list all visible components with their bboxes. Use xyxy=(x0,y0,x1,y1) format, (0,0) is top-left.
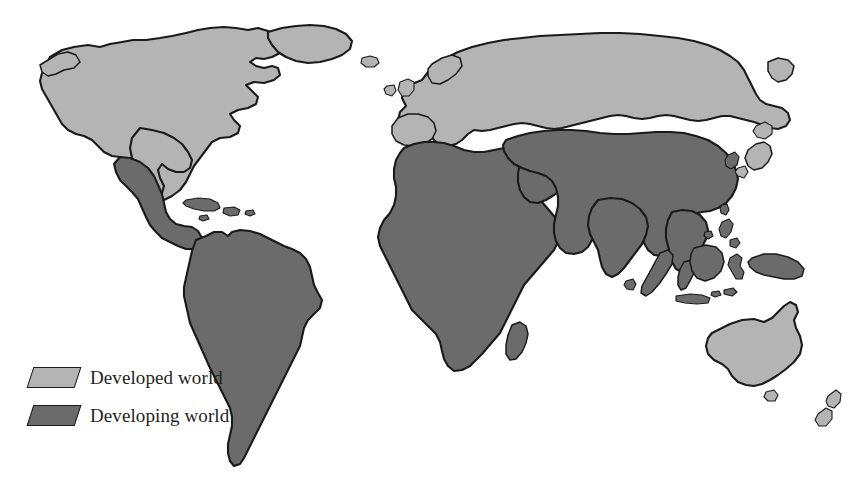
region-canada-usa xyxy=(40,27,284,202)
region-jamaica xyxy=(199,215,209,221)
region-japan-hokkaido xyxy=(753,122,772,139)
legend-label-developed: Developed world xyxy=(90,368,223,387)
region-iceland xyxy=(361,56,379,67)
legend-swatch-developed xyxy=(27,367,82,388)
world-map-figure: Developed world Developing world xyxy=(0,0,861,491)
region-tasmania xyxy=(764,390,778,401)
region-new-zealand-south xyxy=(815,408,832,426)
map-legend: Developed world Developing world xyxy=(30,358,245,434)
region-hispaniola xyxy=(223,207,240,216)
region-japan-group xyxy=(735,122,772,178)
region-java xyxy=(676,294,710,304)
region-greenland xyxy=(268,25,352,63)
region-sri-lanka xyxy=(624,279,636,290)
region-kamchatka xyxy=(768,58,794,82)
region-philippines-south xyxy=(730,238,740,248)
legend-item-developing: Developing world xyxy=(30,396,245,434)
region-sumatra xyxy=(641,250,673,296)
region-ireland xyxy=(384,85,396,96)
region-philippines xyxy=(719,219,733,238)
region-puerto-rico xyxy=(245,210,255,216)
region-cuba xyxy=(183,198,220,211)
region-australia xyxy=(706,302,802,386)
region-borneo xyxy=(690,245,724,281)
region-europe-russia xyxy=(398,33,790,146)
region-japan-honshu xyxy=(745,142,772,170)
region-papua-new-guinea xyxy=(748,254,804,279)
region-british-isles xyxy=(398,79,414,96)
region-lesser-sunda xyxy=(711,291,721,297)
region-india xyxy=(588,198,648,277)
region-madagascar xyxy=(506,322,528,360)
legend-item-developed: Developed world xyxy=(30,358,245,396)
region-timor xyxy=(724,288,737,296)
region-new-zealand-north xyxy=(826,390,841,408)
legend-swatch-developing xyxy=(27,405,82,426)
legend-label-developing: Developing world xyxy=(90,406,229,425)
region-sulawesi xyxy=(728,254,744,279)
region-taiwan xyxy=(720,204,729,215)
